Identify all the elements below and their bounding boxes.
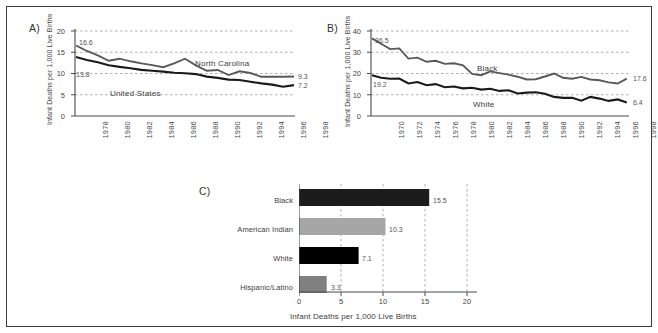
panel-b-xtick-1972: 1972 [415,121,424,139]
bar-american-indian [299,218,386,235]
panel-c: C) [187,179,487,329]
figure-container: A) Infant Deaths per 1,000 Live Births [0,0,658,333]
panel-a-series-label-united-states: United States [110,89,161,98]
bar-black [299,189,429,206]
figure-frame: A) Infant Deaths per 1,000 Live Births [6,6,652,327]
panel-b-xtick-1976: 1976 [451,121,460,139]
panel-a: A) Infant Deaths per 1,000 Live Births [7,7,327,177]
panel-b-xtick-1970: 1970 [397,121,406,139]
panel-a-xtick-1982: 1982 [145,121,154,139]
panel-a-label-us-end: 7.2 [298,82,308,89]
panel-c-xtick-10: 10 [373,297,393,306]
panel-a-xtick-1990: 1990 [233,121,242,139]
panel-b-xtick-1992: 1992 [595,121,604,139]
panel-b-xtick-1984: 1984 [523,121,532,139]
panel-a-letter: A) [29,22,40,34]
panel-b-ytick-20: 20 [345,69,361,78]
panel-a-ytick-15: 15 [49,48,65,57]
panel-b-xtick-1990: 1990 [577,121,586,139]
panel-a-xtick-1978: 1978 [101,121,110,139]
panel-b-letter: B) [327,22,338,34]
panel-a-xtick-1984: 1984 [167,121,176,139]
panel-b-xtick-1974: 1974 [433,121,442,139]
bar-value-label-black: 15.5 [433,197,447,204]
bar-category-label-white: White [197,254,293,263]
panel-b-ytick-10: 10 [345,91,361,100]
panel-a-xtick-1992: 1992 [255,121,264,139]
panel-a-plot [67,29,297,124]
panel-b-series-label-black: Black [477,64,498,73]
panel-b: B) Infant Deaths per 1,000 Live Births [325,7,653,177]
panel-b-ytick-40: 40 [345,27,361,36]
panel-b-series-black [372,38,627,83]
panel-b-plot [363,29,631,124]
panel-c-xtick-5: 5 [331,297,351,306]
panel-b-xtick-1978: 1978 [469,121,478,139]
panel-a-ytick-10: 10 [49,69,65,78]
panel-c-x-axis-title: Infant Deaths per 1,000 Live Births [290,312,417,321]
panel-c-xtick-20: 20 [457,297,477,306]
panel-a-label-us-start: 13.8 [76,71,90,78]
panel-c-plot [299,184,479,302]
bar-value-label-white: 7.1 [362,255,372,262]
panel-a-series-label-north-carolina: North Carolina [195,59,249,68]
panel-a-ytick-0: 0 [49,112,65,121]
bar-value-label-american-indian: 10.3 [389,226,403,233]
panel-b-label-white-start: 19.2 [373,81,387,88]
panel-b-xtick-1996: 1996 [631,121,640,139]
panel-b-xtick-1998: 1998 [649,121,658,139]
panel-a-series-north-carolina [76,46,294,77]
panel-a-xtick-1988: 1988 [211,121,220,139]
panel-a-label-nc-start: 16.6 [79,39,93,46]
bar-category-label-american-indian: American Indian [197,225,293,234]
panel-b-ytick-0: 0 [345,112,361,121]
panel-a-xtick-1994: 1994 [277,121,286,139]
bar-hispanic-latino [299,276,327,293]
panel-a-ytick-5: 5 [49,91,65,100]
panel-b-label-black-start: 36.5 [375,37,389,44]
panel-b-xtick-1982: 1982 [505,121,514,139]
panel-a-xtick-1980: 1980 [123,121,132,139]
bar-white [299,247,359,264]
panel-a-xtick-1986: 1986 [189,121,198,139]
panel-b-label-black-end: 17.6 [633,75,647,82]
panel-b-series-label-white: White [473,100,494,109]
panel-b-label-white-end: 6.4 [633,99,643,106]
bar-value-label-hispanic-latino: 3.3 [331,284,341,291]
bar-category-label-hispanic-latino: Hispanic/Latino [197,283,293,292]
bar-category-label-black: Black [197,196,293,205]
panel-b-xtick-1994: 1994 [613,121,622,139]
panel-b-xtick-1988: 1988 [559,121,568,139]
panel-a-label-nc-end: 9.3 [298,73,308,80]
panel-b-xtick-1980: 1980 [487,121,496,139]
panel-b-ytick-30: 30 [345,48,361,57]
panel-c-xtick-0: 0 [289,297,309,306]
panel-a-ytick-20: 20 [49,27,65,36]
panel-c-xtick-15: 15 [415,297,435,306]
panel-a-xtick-1996: 1996 [299,121,308,139]
panel-b-xtick-1986: 1986 [541,121,550,139]
